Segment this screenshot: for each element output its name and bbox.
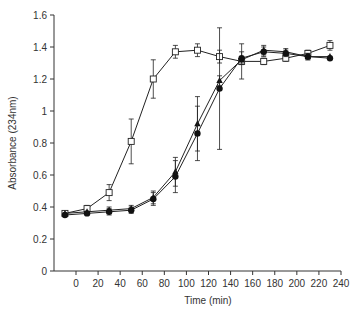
y-tick-label: 0.2 <box>33 234 47 245</box>
data-point <box>128 138 134 144</box>
x-tick-label: 120 <box>200 278 217 289</box>
data-point <box>150 196 156 202</box>
data-point <box>194 130 200 136</box>
data-point <box>128 207 134 213</box>
y-tick-label: 0.8 <box>33 138 47 149</box>
y-axis: 00.20.40.60.811.21.41.6 <box>33 10 54 277</box>
data-point <box>327 55 333 61</box>
data-point <box>238 55 244 61</box>
data-point <box>172 49 178 55</box>
absorbance-chart: 00.20.40.60.811.21.41.6 0204060801001201… <box>0 0 359 317</box>
y-tick-label: 1.2 <box>33 74 47 85</box>
y-tick-label: 1 <box>41 106 47 117</box>
x-tick-label: 80 <box>159 278 171 289</box>
x-axis: 020406080100120140160180200220240 <box>54 271 350 289</box>
data-point <box>261 58 267 64</box>
data-point <box>216 85 222 91</box>
x-tick-label: 180 <box>266 278 283 289</box>
data-point <box>261 49 267 55</box>
x-tick-label: 0 <box>73 278 79 289</box>
data-point <box>194 47 200 53</box>
data-point <box>327 42 333 48</box>
y-tick-label: 0.4 <box>33 202 47 213</box>
y-tick-label: 1.6 <box>33 10 47 21</box>
x-tick-label: 160 <box>244 278 261 289</box>
data-point <box>172 173 178 179</box>
x-tick-label: 60 <box>137 278 149 289</box>
data-point <box>84 210 90 216</box>
x-tick-label: 140 <box>222 278 239 289</box>
y-tick-label: 1.4 <box>33 42 47 53</box>
y-tick-label: 0 <box>41 266 47 277</box>
x-axis-label: Time (min) <box>184 295 231 306</box>
x-tick-label: 220 <box>311 278 328 289</box>
y-axis-label: Absorbance (234nm) <box>7 96 18 189</box>
x-tick-label: 100 <box>178 278 195 289</box>
data-point <box>150 76 156 82</box>
x-tick-label: 20 <box>93 278 105 289</box>
data-point <box>283 50 289 56</box>
x-tick-label: 40 <box>115 278 127 289</box>
y-tick-label: 0.6 <box>33 170 47 181</box>
data-point <box>106 190 112 196</box>
data-point <box>305 53 311 59</box>
data-point <box>62 212 68 218</box>
x-tick-label: 200 <box>288 278 305 289</box>
x-tick-label: 240 <box>333 278 350 289</box>
data-point <box>106 209 112 215</box>
plot-area <box>62 28 333 218</box>
